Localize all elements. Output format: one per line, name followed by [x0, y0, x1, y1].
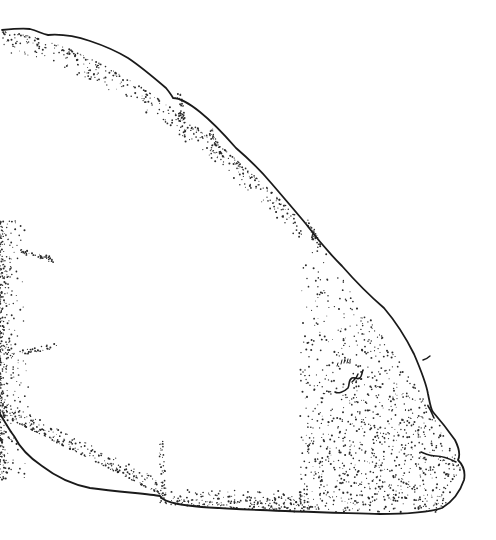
illustration-canvas	[0, 0, 496, 540]
eye-mark	[335, 370, 363, 393]
nose-notch	[421, 452, 456, 462]
upper-notch	[423, 356, 430, 360]
specimen-drawing	[0, 0, 496, 540]
stipple-shading	[0, 31, 461, 513]
